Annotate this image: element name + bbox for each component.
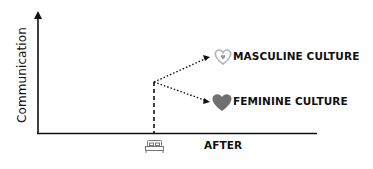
heart-filled-icon [213,94,232,111]
feminine-culture-label: FEMININE CULTURE [233,95,348,107]
y-axis-label: Communication [15,27,29,123]
diagram-canvas [0,0,373,169]
bed-icon [146,141,164,154]
heart-outline-icon [215,50,230,64]
arrowhead-feminine-icon [203,98,210,104]
x-axis-label: AFTER [204,139,242,151]
arrow-to-masculine [154,58,207,82]
arrowhead-masculine-icon [203,55,210,61]
y-axis-arrow-icon [34,11,42,19]
masculine-culture-label: MASCULINE CULTURE [233,50,359,62]
arrow-to-feminine [154,82,207,101]
